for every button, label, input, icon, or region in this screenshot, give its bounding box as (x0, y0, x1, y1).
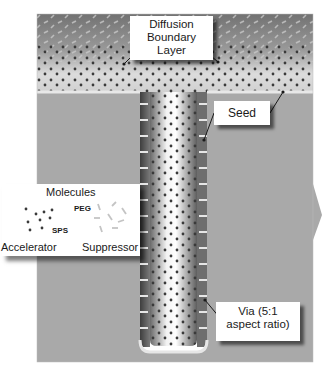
label-line: Via (5:1 (216, 305, 300, 318)
diffusion-boundary-layer-label: Diffusion Boundary Layer (130, 16, 213, 60)
via-label: Via (5:1 aspect ratio) (216, 302, 300, 341)
label-line: Layer (130, 44, 213, 57)
accelerator-label: Accelerator (1, 241, 57, 253)
label-line: Boundary (130, 31, 213, 44)
seed-text: Seed (228, 106, 256, 120)
suppressor-species: PEG (74, 204, 91, 213)
label-line: aspect ratio) (216, 318, 300, 331)
via (140, 92, 207, 352)
via-fill-diagram: Diffusion Boundary Layer Seed Via (5:1 a… (0, 0, 333, 377)
molecules-legend: Molecules SPS PEG Accelerator Suppressor (2, 184, 140, 256)
suppressor-icon (92, 200, 132, 234)
legend-title: Molecules (46, 186, 96, 198)
accelerator-species: SPS (52, 226, 68, 235)
label-line: Diffusion (130, 18, 213, 31)
suppressor-label: Suppressor (82, 241, 138, 253)
seed-label: Seed (214, 101, 270, 125)
